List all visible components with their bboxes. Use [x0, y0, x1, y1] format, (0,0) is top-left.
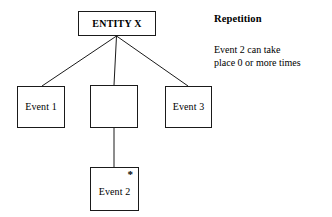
node-entity-x-label: ENTITY X — [92, 19, 141, 29]
node-event-2[interactable]: * Event 2 — [90, 167, 139, 211]
annotation-panel: Repetition Event 2 can take place 0 or m… — [214, 13, 332, 70]
node-event-3-label: Event 3 — [173, 102, 205, 112]
diagram-canvas: ENTITY X Event 1 Event 3 * Event 2 Repet… — [0, 0, 332, 217]
annotation-title: Repetition — [214, 13, 332, 25]
node-event-3[interactable]: Event 3 — [165, 86, 212, 128]
connector-entity-to-group — [114, 36, 117, 85]
node-event-1[interactable]: Event 1 — [17, 86, 65, 128]
node-event-1-label: Event 1 — [25, 102, 57, 112]
annotation-body-line-2: place 0 or more times — [214, 56, 332, 70]
node-entity-x[interactable]: ENTITY X — [78, 11, 156, 36]
annotation-body-line-1: Event 2 can take — [214, 43, 332, 57]
connector-entity-to-event1 — [42, 36, 117, 86]
node-event-2-label: Event 2 — [99, 187, 131, 197]
annotation-body: Event 2 can take place 0 or more times — [214, 43, 332, 70]
connector-entity-to-event3 — [117, 36, 189, 86]
node-grouping-box[interactable] — [90, 85, 138, 128]
asterisk-repetition-icon: * — [128, 169, 134, 180]
